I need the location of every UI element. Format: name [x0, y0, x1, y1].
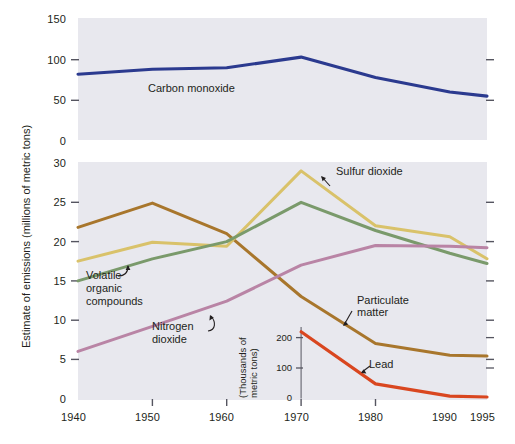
inset-y-tick-100: 100: [262, 362, 292, 373]
x-tick-1970: 1970: [284, 411, 309, 423]
series-line-lead: [301, 332, 487, 397]
x-tick-1940: 1940: [61, 411, 86, 423]
bottom-y-tick-0: 0: [38, 393, 66, 405]
x-tick-1995: 1995: [470, 411, 495, 423]
x-tick-1960: 1960: [209, 411, 234, 423]
bottom-y-tick-5: 5: [38, 353, 66, 365]
inset-y-axis-title-line2: metric tons): [249, 348, 260, 398]
series-label-nitrogen-line1: Nitrogen: [152, 320, 194, 333]
inset-y-tick-200: 200: [262, 332, 292, 343]
series-label-volatile-line1: Volatile: [86, 269, 121, 282]
x-tick-1990: 1990: [432, 411, 457, 423]
emissions-figure: Estimate of emissions (millions of metri…: [0, 0, 515, 444]
inset-y-axis-title-line1: (Thousands of: [238, 337, 249, 398]
x-tick-1950: 1950: [135, 411, 160, 423]
bottom-panel-right-ticks: [486, 202, 494, 359]
series-line-carbon-monoxide: [78, 57, 487, 96]
series-label-volatile-line3: compounds: [86, 295, 143, 308]
top-y-tick-150: 150: [38, 13, 66, 25]
y-axis-title: Estimate of emissions (millions of metri…: [20, 125, 32, 348]
top-y-tick-50: 50: [38, 94, 66, 106]
series-label-volatile-line2: organic: [86, 282, 122, 295]
bottom-y-tick-15: 15: [38, 275, 66, 287]
x-tick-1980: 1980: [358, 411, 383, 423]
series-label-carbon-monoxide: Carbon monoxide: [148, 82, 235, 95]
series-line-sulfur-dioxide: [78, 171, 487, 261]
inset-right-ticks: [486, 338, 494, 368]
bottom-y-tick-30: 30: [38, 157, 66, 169]
series-label-sulfur-dioxide: Sulfur dioxide: [336, 165, 403, 178]
inset-y-tick-0: 0: [262, 392, 292, 403]
bottom-y-tick-20: 20: [38, 236, 66, 248]
top-y-tick-100: 100: [38, 54, 66, 66]
top-panel-right-ticks: [486, 60, 494, 101]
top-y-tick-0: 0: [38, 135, 66, 147]
series-line-volatile-organic-compounds: [78, 202, 487, 281]
inset-left-ticks: [296, 338, 303, 368]
series-label-lead: Lead: [369, 358, 393, 371]
series-label-nitrogen-line2: dioxide: [152, 333, 187, 346]
series-label-particulate-matter-line2: matter: [357, 306, 388, 319]
top-panel-left-ticks: [71, 60, 79, 101]
bottom-y-tick-25: 25: [38, 196, 66, 208]
bottom-y-tick-10: 10: [38, 314, 66, 326]
